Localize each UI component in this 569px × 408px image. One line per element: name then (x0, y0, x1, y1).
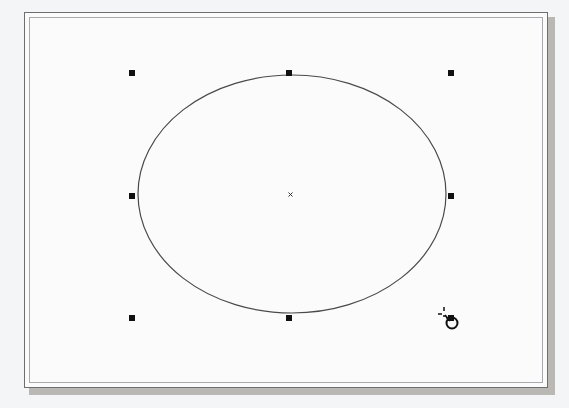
handle-top-middle[interactable] (286, 70, 292, 76)
handle-middle-right[interactable] (448, 193, 454, 199)
handle-bottom-middle[interactable] (286, 315, 292, 321)
handle-bottom-left[interactable] (129, 315, 135, 321)
drawing-canvas[interactable] (0, 0, 569, 408)
center-marker-icon (289, 193, 293, 197)
handle-top-left[interactable] (129, 70, 135, 76)
handle-top-right[interactable] (448, 70, 454, 76)
handle-middle-left[interactable] (129, 193, 135, 199)
ellipse-shape[interactable] (138, 75, 446, 313)
rotate-cursor-icon (436, 305, 466, 335)
